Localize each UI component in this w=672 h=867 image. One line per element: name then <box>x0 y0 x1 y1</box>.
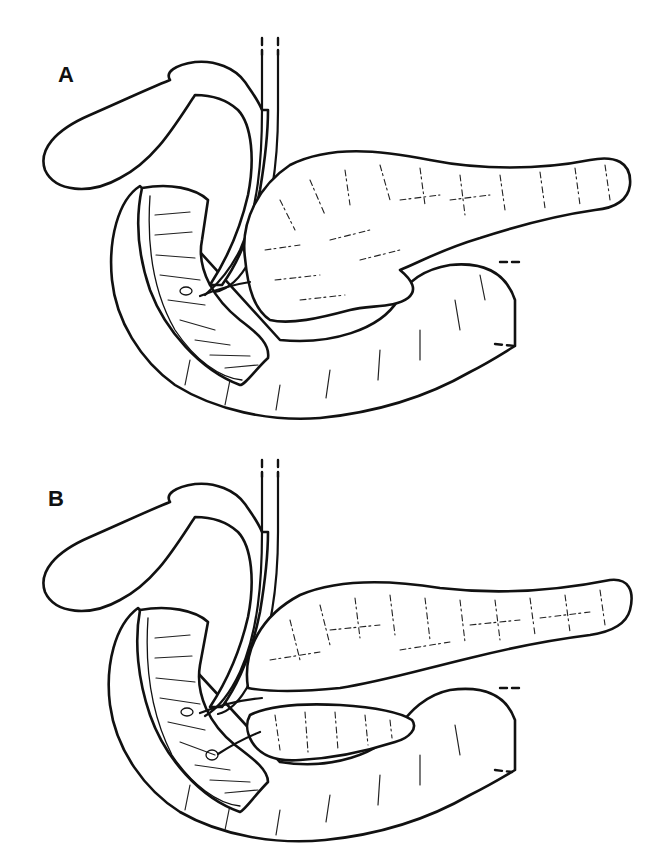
panel-b: B <box>0 420 672 853</box>
panel-a: A <box>0 0 672 433</box>
anatomy-drawing-a <box>0 0 672 433</box>
dorsal-pancreas <box>247 580 632 691</box>
anatomy-drawing-b <box>0 420 672 867</box>
